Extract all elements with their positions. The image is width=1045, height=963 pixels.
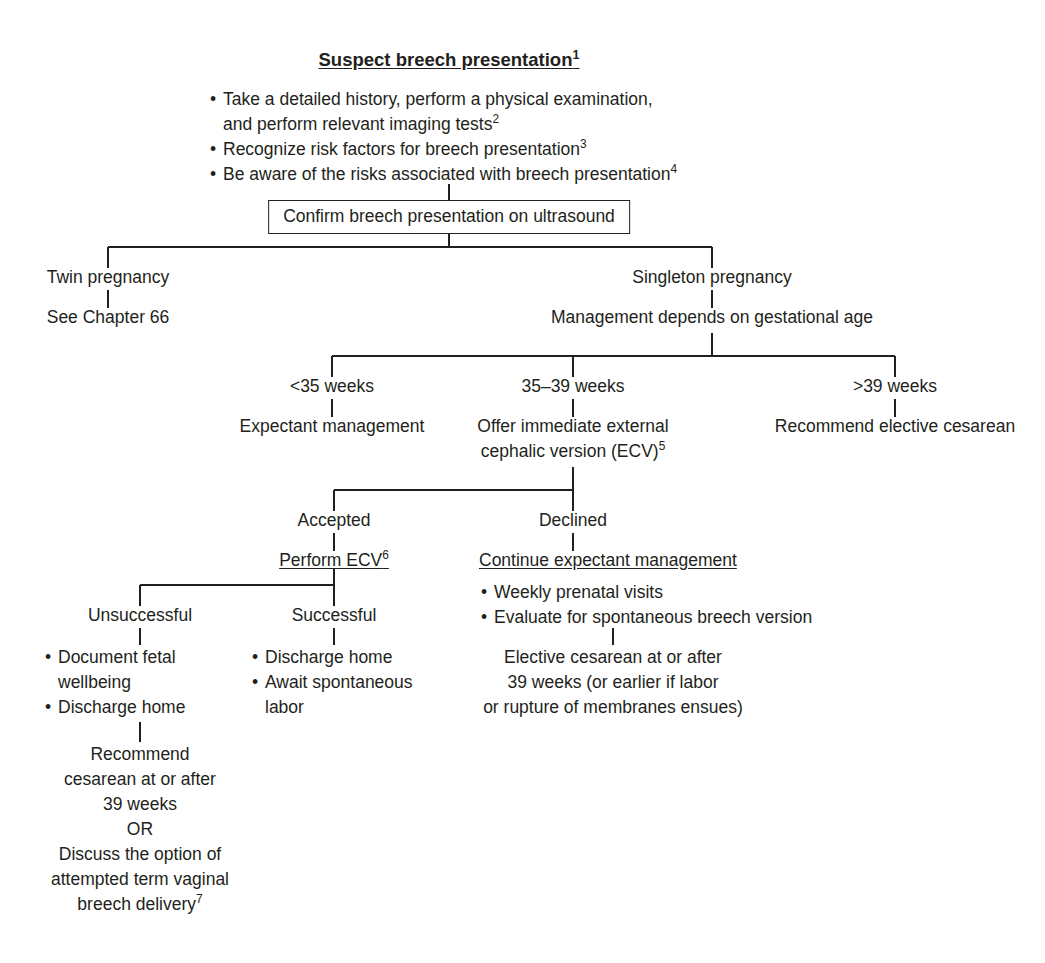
node-offer-ecv-superscript: 5 <box>659 439 666 453</box>
header-bullet-1: Take a detailed history, perform a physi… <box>210 87 677 112</box>
node-unsuccessful-outcome-line7-text: breech delivery <box>77 894 196 914</box>
node-35-39-weeks: 35–39 weeks <box>521 374 624 399</box>
node-management-gestational-age: Management depends on gestational age <box>551 305 873 330</box>
node-ecv-declined-label: Declined <box>539 510 607 530</box>
unsuccessful-bullet-1: Document fetal <box>45 645 185 670</box>
node-perform-ecv: Perform ECV6 <box>279 548 389 573</box>
unsuccessful-bullet-1-continued: wellbeing <box>45 670 185 695</box>
header-bullet-2-text: Recognize risk factors for breech presen… <box>223 139 580 159</box>
node-recommend-elective-cesarean: Recommend elective cesarean <box>775 414 1015 439</box>
declined-bullet-1: Weekly prenatal visits <box>481 580 812 605</box>
node-lt35-weeks: <35 weeks <box>290 374 374 399</box>
node-expectant-management-label: Expectant management <box>240 416 425 436</box>
page-title-superscript: 1 <box>572 48 579 62</box>
successful-bullet-1: Discharge home <box>252 645 413 670</box>
header-bullet-3: Be aware of the risks associated with br… <box>210 162 677 187</box>
node-gt39-weeks: >39 weeks <box>853 374 937 399</box>
successful-bullet-1-text: Discharge home <box>265 647 392 667</box>
confirm-breech-box: Confirm breech presentation on ultrasoun… <box>268 200 630 234</box>
declined-bullet-1-text: Weekly prenatal visits <box>494 582 663 602</box>
node-unsuccessful-outcome-superscript: 7 <box>196 892 203 906</box>
header-bullet-list: Take a detailed history, perform a physi… <box>210 87 677 187</box>
node-offer-ecv-line2: cephalic version (ECV)5 <box>477 439 668 464</box>
node-unsuccessful-outcome-line7: breech delivery7 <box>51 892 229 917</box>
unsuccessful-bullet-2-text: Discharge home <box>58 697 185 717</box>
node-singleton-pregnancy-label: Singleton pregnancy <box>632 267 792 287</box>
node-ecv-accepted: Accepted <box>298 508 371 533</box>
node-continue-expectant-management: Continue expectant management <box>479 548 737 573</box>
successful-bullet-2: Await spontaneous <box>252 670 413 695</box>
node-unsuccessful-outcome-line2: cesarean at or after <box>51 767 229 792</box>
node-twin-pregnancy: Twin pregnancy <box>47 265 170 290</box>
node-ecv-declined: Declined <box>539 508 607 533</box>
header-bullet-3-superscript: 4 <box>670 162 677 176</box>
node-offer-ecv-line1: Offer immediate external <box>477 414 668 439</box>
successful-bullet-2-text: Await spontaneous <box>265 672 413 692</box>
node-declined-outcome-line1: Elective cesarean at or after <box>483 645 743 670</box>
node-see-chapter: See Chapter 66 <box>47 305 170 330</box>
node-recommend-elective-cesarean-label: Recommend elective cesarean <box>775 416 1015 436</box>
node-perform-ecv-superscript: 6 <box>382 548 389 562</box>
header-bullet-1-continued: and perform relevant imaging tests2 <box>210 112 677 137</box>
node-declined-outcome-line3: or rupture of membranes ensues) <box>483 695 743 720</box>
node-ecv-accepted-label: Accepted <box>298 510 371 530</box>
node-ecv-unsuccessful-label: Unsuccessful <box>88 605 192 625</box>
node-ecv-successful: Successful <box>292 603 377 628</box>
unsuccessful-bullet-1-text: Document fetal <box>58 647 176 667</box>
node-offer-ecv-line2-text: cephalic version (ECV) <box>481 441 659 461</box>
unsuccessful-bullet-1-continued-text: wellbeing <box>58 672 131 692</box>
node-unsuccessful-outcome-line4: OR <box>51 817 229 842</box>
header-bullet-3-text: Be aware of the risks associated with br… <box>223 164 670 184</box>
confirm-breech-label: Confirm breech presentation on ultrasoun… <box>283 206 615 226</box>
declined-bullet-2: Evaluate for spontaneous breech version <box>481 605 812 630</box>
header-bullet-2: Recognize risk factors for breech presen… <box>210 137 677 162</box>
node-continue-expectant-management-label: Continue expectant management <box>479 550 737 570</box>
flowchart-page: Suspect breech presentation1 Take a deta… <box>0 0 1045 963</box>
header-bullet-2-superscript: 3 <box>580 137 587 151</box>
header-bullet-1-text: Take a detailed history, perform a physi… <box>223 89 653 109</box>
header-bullet-1-continued-text: and perform relevant imaging tests <box>223 114 492 134</box>
node-ecv-successful-label: Successful <box>292 605 377 625</box>
successful-bullet-2-continued: labor <box>252 695 413 720</box>
node-unsuccessful-outcome-line6: attempted term vaginal <box>51 867 229 892</box>
unsuccessful-bullet-list: Document fetal wellbeing Discharge home <box>45 645 185 720</box>
successful-bullet-2-continued-text: labor <box>265 697 304 717</box>
page-title-text: Suspect breech presentation <box>319 49 573 70</box>
node-declined-outcome-line2: 39 weeks (or earlier if labor <box>483 670 743 695</box>
node-perform-ecv-label: Perform ECV <box>279 550 382 570</box>
node-expectant-management: Expectant management <box>240 414 425 439</box>
node-unsuccessful-outcome-line1: Recommend <box>51 742 229 767</box>
declined-bullet-list: Weekly prenatal visits Evaluate for spon… <box>481 580 812 630</box>
page-title: Suspect breech presentation1 <box>319 47 580 72</box>
node-unsuccessful-outcome-line3: 39 weeks <box>51 792 229 817</box>
unsuccessful-bullet-2: Discharge home <box>45 695 185 720</box>
node-35-39-weeks-label: 35–39 weeks <box>521 376 624 396</box>
node-singleton-pregnancy: Singleton pregnancy <box>632 265 792 290</box>
node-declined-outcome: Elective cesarean at or after 39 weeks (… <box>483 645 743 720</box>
declined-bullet-2-text: Evaluate for spontaneous breech version <box>494 607 812 627</box>
node-unsuccessful-outcome: Recommend cesarean at or after 39 weeks … <box>51 742 229 917</box>
node-twin-pregnancy-label: Twin pregnancy <box>47 267 170 287</box>
successful-bullet-list: Discharge home Await spontaneous labor <box>252 645 413 720</box>
node-see-chapter-label: See Chapter 66 <box>47 307 170 327</box>
node-lt35-weeks-label: <35 weeks <box>290 376 374 396</box>
node-unsuccessful-outcome-line5: Discuss the option of <box>51 842 229 867</box>
node-ecv-unsuccessful: Unsuccessful <box>88 603 192 628</box>
header-bullet-1-superscript: 2 <box>492 112 499 126</box>
node-gt39-weeks-label: >39 weeks <box>853 376 937 396</box>
node-management-gestational-age-label: Management depends on gestational age <box>551 307 873 327</box>
node-offer-ecv: Offer immediate external cephalic versio… <box>477 414 668 464</box>
